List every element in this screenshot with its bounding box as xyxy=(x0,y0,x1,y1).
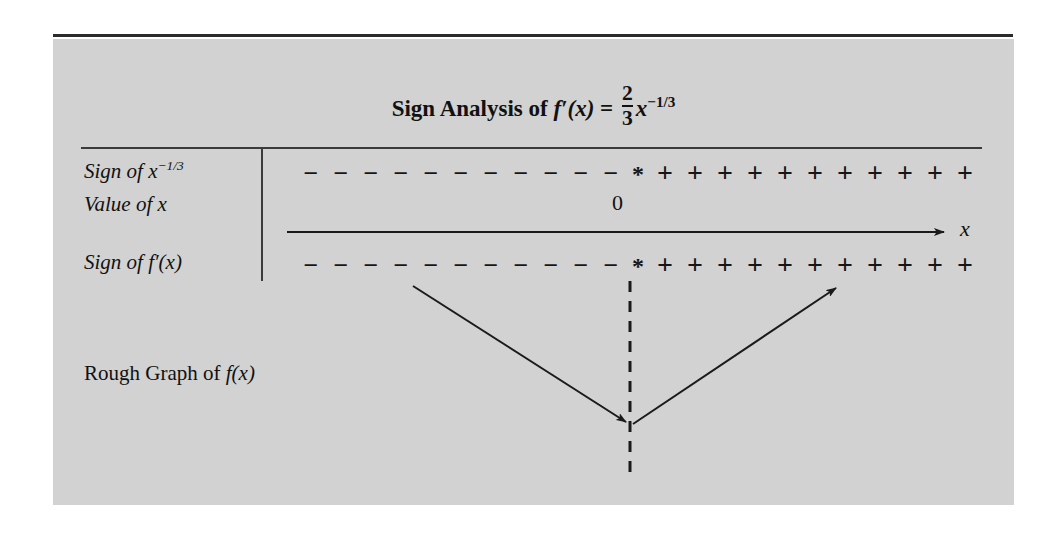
fraction-denominator: 3 xyxy=(622,107,633,129)
row-label-sign-of-x-power: Sign of x−1/3 xyxy=(84,158,184,184)
sign-glyph-plus: + xyxy=(680,249,710,281)
sign-glyph-minus: − xyxy=(566,251,596,281)
sign-glyph-plus: + xyxy=(740,157,770,189)
sign-glyph-plus: + xyxy=(920,249,950,281)
sign-glyph-plus: + xyxy=(650,157,680,189)
sign-glyph-minus: − xyxy=(326,251,356,281)
fraction-numerator: 2 xyxy=(622,82,633,104)
title-variable: x xyxy=(636,96,648,121)
table-horizontal-rule xyxy=(81,147,982,149)
caption-prefix: Rough Graph of xyxy=(84,361,226,385)
sign-glyph-minus: − xyxy=(356,251,386,281)
sign-glyph-plus: + xyxy=(740,249,770,281)
sign-analysis-figure: Sign Analysis of f′(x) = 23x−1/3 Sign of… xyxy=(0,0,1058,537)
sign-glyph-star: * xyxy=(626,253,650,280)
sign-glyph-plus: + xyxy=(830,249,860,281)
sign-glyph-plus: + xyxy=(920,157,950,189)
x-axis-label: x xyxy=(960,216,970,242)
caption-function: f(x) xyxy=(226,361,255,385)
sign-glyph-minus: − xyxy=(356,159,386,189)
sign-glyph-plus: + xyxy=(890,249,920,281)
sign-glyph-plus: + xyxy=(860,249,890,281)
rough-graph-caption: Rough Graph of f(x) xyxy=(84,361,255,386)
frame-top-rule xyxy=(53,34,1013,37)
sign-glyph-minus: − xyxy=(536,251,566,281)
sign-glyph-plus: + xyxy=(800,157,830,189)
sign-glyph-minus: − xyxy=(596,251,626,281)
sign-glyph-minus: − xyxy=(386,159,416,189)
row-label-variable: x xyxy=(148,159,157,183)
sign-glyph-minus: − xyxy=(506,159,536,189)
row-label-exponent: −1/3 xyxy=(158,158,184,173)
figure-title: Sign Analysis of f′(x) = 23x−1/3 xyxy=(53,82,1014,129)
sign-strip-f-prime: −−−−−−−−−−−*+++++++++++ xyxy=(296,249,980,281)
sign-glyph-plus: + xyxy=(950,157,980,189)
sign-glyph-plus: + xyxy=(800,249,830,281)
title-prefix: Sign Analysis of xyxy=(392,96,554,121)
critical-value-zero-label: 0 xyxy=(612,190,623,216)
title-exponent: −1/3 xyxy=(647,93,675,110)
row-label-prefix: Sign of xyxy=(84,250,148,274)
title-function: f′(x) xyxy=(553,96,594,121)
title-fraction: 23 xyxy=(622,82,633,129)
sign-glyph-minus: − xyxy=(296,159,326,189)
title-equals: = xyxy=(594,96,619,121)
sign-glyph-minus: − xyxy=(296,251,326,281)
sign-glyph-minus: − xyxy=(476,159,506,189)
sign-glyph-minus: − xyxy=(506,251,536,281)
row-label-sign-of-f-prime: Sign of f′(x) xyxy=(84,250,182,275)
sign-glyph-minus: − xyxy=(536,159,566,189)
sign-glyph-plus: + xyxy=(680,157,710,189)
sign-glyph-plus: + xyxy=(770,157,800,189)
sign-glyph-minus: − xyxy=(416,159,446,189)
sign-glyph-minus: − xyxy=(596,159,626,189)
sign-glyph-minus: − xyxy=(446,159,476,189)
sign-glyph-plus: + xyxy=(710,157,740,189)
sign-glyph-star: * xyxy=(626,161,650,188)
sign-glyph-plus: + xyxy=(830,157,860,189)
row-label-variable: f′(x) xyxy=(148,250,182,274)
sign-glyph-minus: − xyxy=(416,251,446,281)
sign-strip-x-power: −−−−−−−−−−−*+++++++++++ xyxy=(296,157,980,189)
sign-glyph-plus: + xyxy=(890,157,920,189)
table-vertical-rule xyxy=(261,148,263,281)
row-label-prefix: Value of xyxy=(84,192,158,216)
sign-glyph-plus: + xyxy=(710,249,740,281)
sign-glyph-minus: − xyxy=(566,159,596,189)
sign-glyph-plus: + xyxy=(650,249,680,281)
sign-glyph-plus: + xyxy=(950,249,980,281)
sign-glyph-plus: + xyxy=(860,157,890,189)
row-label-variable: x xyxy=(158,192,167,216)
sign-glyph-minus: − xyxy=(326,159,356,189)
row-label-prefix: Sign of xyxy=(84,159,148,183)
sign-glyph-minus: − xyxy=(446,251,476,281)
sign-glyph-plus: + xyxy=(770,249,800,281)
row-label-value-of-x: Value of x xyxy=(84,192,167,217)
sign-glyph-minus: − xyxy=(476,251,506,281)
sign-glyph-minus: − xyxy=(386,251,416,281)
